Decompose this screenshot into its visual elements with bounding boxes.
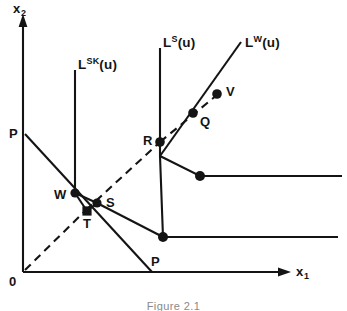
isoquant-label-ls: LS(u) — [163, 36, 196, 50]
isoquant-LW — [160, 42, 338, 237]
LW-upper-ray — [160, 42, 241, 156]
x-axis-arrowhead — [278, 268, 291, 277]
y-axis-label-sub: 2 — [21, 8, 26, 18]
point-marker-T — [82, 206, 91, 215]
ray-origin-to-T — [25, 210, 86, 270]
price-line-label-lower: P — [151, 255, 160, 268]
point-marker-S — [92, 198, 101, 207]
point-label-S: S — [106, 196, 115, 209]
isoquant-label-lw: LW(u) — [245, 36, 280, 50]
point-marker-LW-kink — [158, 232, 168, 242]
x-axis-label: x1 — [296, 265, 309, 278]
figure-container: x2 x1 0 LSK(u) LS(u) LW(u) P P W S T R Q… — [0, 0, 347, 311]
point-marker-Q — [188, 108, 198, 118]
price-line-label-upper: P — [9, 127, 18, 140]
isoquant-label-lw-sup: W — [253, 34, 262, 44]
price-line-segment — [25, 134, 152, 272]
data-point-markers — [70, 89, 221, 242]
point-label-V: V — [226, 85, 235, 98]
point-label-T: T — [83, 217, 91, 230]
LS-lower-branch — [160, 156, 342, 176]
point-marker-V — [212, 89, 222, 99]
point-label-W: W — [54, 188, 66, 201]
isoquant-label-ls-sup: S — [171, 34, 177, 44]
isoquant-label-ls-arg: (u) — [178, 35, 196, 50]
y-axis-label-text: x — [13, 1, 20, 16]
point-label-Q: Q — [200, 115, 210, 128]
LW-lower-branch — [160, 156, 338, 237]
figure-caption: Figure 2.1 — [0, 300, 347, 311]
x-axis-label-sub: 1 — [304, 271, 309, 281]
isoquant-label-lsk: LSK(u) — [78, 58, 117, 72]
isoquant-label-lsk-arg: (u) — [99, 57, 117, 72]
point-label-R: R — [143, 134, 153, 147]
isoquant-LS — [160, 48, 342, 176]
x-axis-label-text: x — [296, 264, 303, 279]
expansion-ray-dashed — [25, 95, 217, 270]
point-marker-W — [70, 188, 79, 197]
point-marker-LS-kink — [195, 171, 205, 181]
point-marker-R — [155, 137, 165, 147]
isoquant-label-lsk-sup: SK — [86, 56, 99, 66]
isoquant-label-lw-arg: (u) — [262, 35, 280, 50]
origin-label: 0 — [9, 275, 16, 288]
y-axis-label: x2 — [13, 2, 26, 15]
price-line-PP — [25, 134, 152, 272]
